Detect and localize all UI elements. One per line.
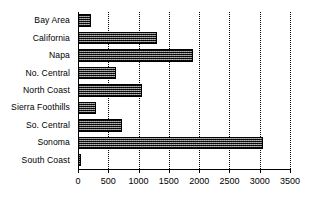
bar	[78, 32, 157, 45]
bar-row	[78, 47, 290, 64]
y-axis-tick-sierra-foothills: Sierra Foothills	[0, 99, 74, 116]
y-axis-tick-label: South Coast	[22, 156, 70, 165]
bar-row	[78, 29, 290, 46]
x-axis-tick	[260, 169, 261, 173]
bar-chart: Bay Area California Napa No. Central Nor…	[0, 0, 309, 202]
x-axis-tick-label: 3000	[250, 176, 270, 187]
y-axis-tick-label: Sonoma	[37, 138, 70, 147]
x-axis-tick	[78, 169, 79, 173]
bar-row	[78, 134, 290, 151]
bar	[78, 67, 116, 80]
bar	[78, 14, 91, 27]
y-axis-tick-label: California	[33, 34, 70, 43]
x-axis-tick	[199, 169, 200, 173]
y-axis-tick-so-central: So. Central	[0, 117, 74, 134]
x-axis-tick-label: 0	[75, 176, 80, 187]
bar-row	[78, 99, 290, 116]
x-axis-tick	[169, 169, 170, 173]
y-axis-labels: Bay Area California Napa No. Central Nor…	[0, 12, 74, 169]
bar	[78, 102, 96, 115]
y-axis-tick-south-coast: South Coast	[0, 152, 74, 169]
y-axis-tick-label: Bay Area	[34, 16, 70, 25]
x-axis-tick-label: 2000	[189, 176, 209, 187]
y-axis-tick-california: California	[0, 29, 74, 46]
bar-row	[78, 12, 290, 29]
bar	[78, 49, 193, 62]
y-axis-tick-label: North Coast	[23, 86, 70, 95]
bar	[78, 137, 263, 150]
y-axis-tick-label: Napa	[49, 51, 70, 60]
y-axis-tick-sonoma: Sonoma	[0, 134, 74, 151]
y-axis-tick-no-central: No. Central	[0, 64, 74, 81]
bar-row	[78, 82, 290, 99]
x-axis-tick-label: 2500	[219, 176, 239, 187]
x-axis-tick-label: 3500	[280, 176, 300, 187]
x-axis-tick	[229, 169, 230, 173]
y-axis-tick-bay-area: Bay Area	[0, 12, 74, 29]
y-axis-line	[78, 12, 79, 170]
plot-area	[78, 12, 290, 169]
x-axis-line	[78, 169, 290, 170]
bar	[78, 119, 122, 132]
bars-layer	[78, 12, 290, 169]
y-axis-tick-napa: Napa	[0, 47, 74, 64]
x-axis-tick	[290, 169, 291, 173]
x-axis-labels: 0500100015002000250030003500	[0, 176, 309, 190]
x-axis-tick-label: 500	[101, 176, 116, 187]
y-axis-tick-label: So. Central	[26, 121, 70, 130]
y-axis-tick-label: Sierra Foothills	[11, 103, 70, 112]
bar-row	[78, 64, 290, 81]
y-axis-tick-label: No. Central	[25, 69, 70, 78]
x-axis-tick	[108, 169, 109, 173]
x-axis-tick	[139, 169, 140, 173]
bar-row	[78, 152, 290, 169]
y-axis-tick-north-coast: North Coast	[0, 82, 74, 99]
gridline	[290, 12, 291, 169]
bar	[78, 84, 142, 97]
bar-row	[78, 117, 290, 134]
x-axis-tick-label: 1500	[159, 176, 179, 187]
x-axis-tick-label: 1000	[129, 176, 149, 187]
